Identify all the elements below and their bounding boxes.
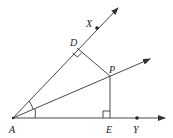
label-X: X (85, 18, 93, 29)
label-E: E (105, 124, 112, 135)
point-A-dot (12, 117, 14, 119)
label-Y: Y (133, 124, 140, 135)
label-A: A (8, 124, 16, 135)
segment-PD (77, 48, 110, 76)
angle-arc-XAP (29, 101, 33, 109)
label-D: D (69, 37, 78, 48)
point-X-dot (95, 26, 99, 30)
ray-AX (13, 8, 118, 118)
label-P: P (108, 64, 115, 75)
right-angle-mark-E (103, 111, 110, 118)
geometry-diagram: X D P A E Y (0, 0, 173, 138)
bisector-ray-AP (13, 59, 150, 118)
point-Y-dot (135, 116, 139, 120)
